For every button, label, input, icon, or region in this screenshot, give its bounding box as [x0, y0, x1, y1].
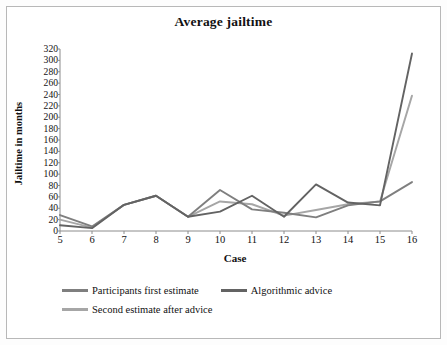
legend-row: Second estimate after advice	[62, 302, 412, 317]
x-tick-label: 10	[208, 234, 232, 245]
legend-label: Second estimate after advice	[92, 304, 212, 315]
legend-swatch-icon	[62, 289, 88, 291]
x-tick-label: 15	[368, 234, 392, 245]
x-tick-label: 6	[80, 234, 104, 245]
x-tick-label: 12	[272, 234, 296, 245]
legend-swatch-icon	[221, 289, 247, 291]
legend-row: Participants first estimateAlgorithmic a…	[62, 283, 412, 298]
x-tick-label: 13	[304, 234, 328, 245]
legend-item[interactable]: Participants first estimate	[62, 285, 199, 296]
legend-label: Participants first estimate	[92, 285, 199, 296]
x-tick-label: 8	[144, 234, 168, 245]
chart-figure: Average jailtime Jailtime in months 3203…	[0, 0, 447, 345]
x-tick-label: 16	[400, 234, 424, 245]
x-axis-ticks: 5678910111213141516	[60, 234, 412, 250]
legend-item[interactable]: Second estimate after advice	[62, 304, 212, 315]
legend-item[interactable]: Algorithmic advice	[221, 285, 332, 296]
x-tick-label: 9	[176, 234, 200, 245]
x-tick-label: 7	[112, 234, 136, 245]
legend-swatch-icon	[62, 308, 88, 310]
legend-label: Algorithmic advice	[251, 285, 332, 296]
chart-legend: Participants first estimateAlgorithmic a…	[62, 283, 412, 321]
x-axis-label: Case	[60, 252, 410, 264]
x-tick-label: 5	[48, 234, 72, 245]
x-tick-label: 11	[240, 234, 264, 245]
x-tick-label: 14	[336, 234, 360, 245]
